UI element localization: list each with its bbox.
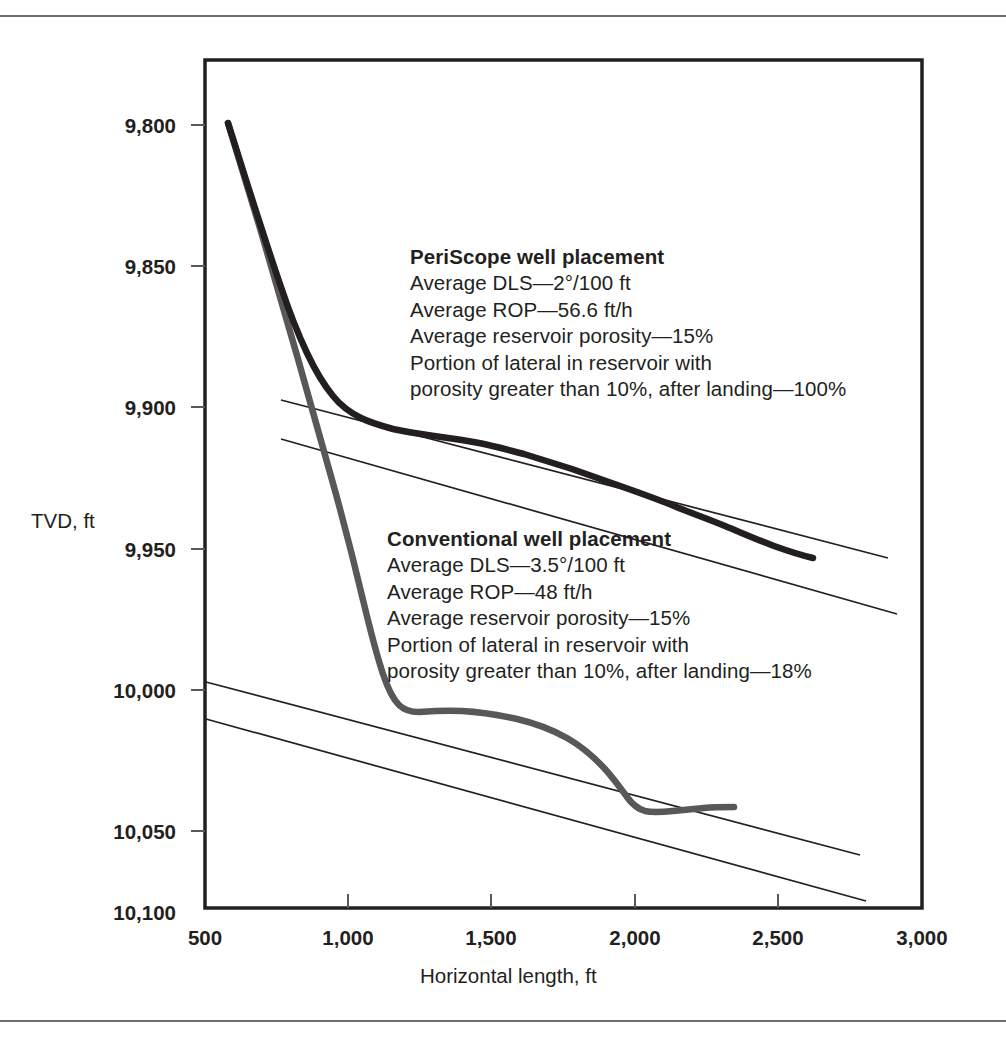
- y-tick-label: 10,000: [113, 679, 176, 702]
- annotation-conventional-line-2: Average ROP—48 ft/h: [387, 579, 812, 605]
- x-tick-labels: 500 1,000 1,500 2,000 2,500 3,000: [188, 926, 948, 949]
- annotation-conventional-line-5: porosity greater than 10%, after landing…: [387, 658, 812, 684]
- x-tick-label: 500: [188, 926, 222, 949]
- plot-frame: [205, 60, 922, 908]
- chart-plot-area: 9,800 9,850 9,900 9,950 10,000 10,050 10…: [0, 17, 1006, 1017]
- y-tick-labels: 9,800 9,850 9,900 9,950 10,000 10,050 10…: [113, 114, 176, 924]
- annotation-periscope-line-3: Average reservoir porosity—15%: [410, 323, 846, 349]
- y-tick-label: 9,850: [125, 255, 176, 278]
- y-axis-label: TVD, ft: [31, 509, 95, 533]
- x-axis-ticks: [348, 894, 778, 908]
- y-tick-label: 9,950: [125, 538, 176, 561]
- y-axis-ticks: [191, 125, 205, 831]
- annotation-periscope-line-2: Average ROP—56.6 ft/h: [410, 297, 846, 323]
- annotation-conventional-line-4: Portion of lateral in reservoir with: [387, 632, 812, 658]
- chart-figure: 9,800 9,850 9,900 9,950 10,000 10,050 10…: [0, 17, 1006, 1017]
- x-tick-label: 3,000: [896, 926, 947, 949]
- x-tick-label: 2,500: [752, 926, 803, 949]
- annotation-conventional-line-3: Average reservoir porosity—15%: [387, 605, 812, 631]
- annotation-periscope-line-1: Average DLS—2°/100 ft: [410, 270, 846, 296]
- annotation-periscope-line-4: Portion of lateral in reservoir with: [410, 350, 846, 376]
- bottom-divider-rule: [0, 1020, 1006, 1022]
- conventional-well-curve: [228, 123, 734, 812]
- y-tick-label: 9,800: [125, 114, 176, 137]
- annotation-periscope: PeriScope well placement Average DLS—2°/…: [410, 244, 846, 402]
- y-tick-label: 9,900: [125, 396, 176, 419]
- annotation-conventional: Conventional well placement Average DLS—…: [387, 526, 812, 684]
- x-axis-label: Horizontal length, ft: [420, 964, 597, 988]
- annotation-conventional-line-1: Average DLS—3.5°/100 ft: [387, 552, 812, 578]
- annotation-conventional-title: Conventional well placement: [387, 526, 812, 552]
- annotation-periscope-line-5: porosity greater than 10%, after landing…: [410, 376, 846, 402]
- lower-reservoir-base-line: [206, 719, 866, 901]
- annotation-periscope-title: PeriScope well placement: [410, 244, 846, 270]
- y-tick-label: 10,050: [113, 820, 176, 843]
- x-tick-label: 2,000: [609, 926, 660, 949]
- lower-reservoir-top-line: [206, 682, 860, 855]
- x-tick-label: 1,000: [322, 926, 373, 949]
- x-tick-label: 1,500: [465, 926, 516, 949]
- y-tick-label: 10,100: [113, 901, 176, 924]
